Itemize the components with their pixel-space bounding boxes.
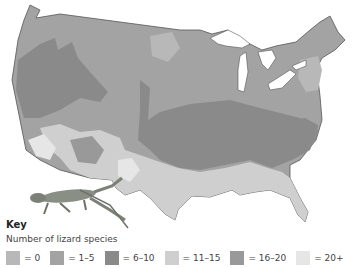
lizard-illustration — [30, 178, 128, 228]
us-lizard-species-map — [0, 0, 360, 240]
key-title: Key — [6, 219, 27, 230]
legend-item-6-10: = 6–10 — [105, 251, 155, 265]
legend-label: = 20+ — [314, 253, 343, 263]
legend-label: = 1–5 — [68, 253, 94, 263]
swatch-6-10 — [105, 251, 119, 265]
legend-label: = 11–15 — [183, 253, 221, 263]
legend-item-0: = 0 — [6, 251, 40, 265]
swatch-11-15 — [165, 251, 179, 265]
legend-item-11-15: = 11–15 — [165, 251, 221, 265]
swatch-20-plus — [296, 251, 310, 265]
legend-label: = 0 — [24, 253, 40, 263]
legend-item-16-20: = 16–20 — [230, 251, 286, 265]
swatch-0 — [6, 251, 20, 265]
legend-item-1-5: = 1–5 — [50, 251, 94, 265]
legend-label: = 16–20 — [248, 253, 286, 263]
legend: = 0 = 1–5 = 6–10 = 11–15 = 16–20 = 20+ — [6, 251, 354, 265]
legend-label: = 6–10 — [123, 253, 155, 263]
swatch-1-5 — [50, 251, 64, 265]
key-subtitle: Number of lizard species — [6, 234, 118, 244]
legend-item-20-plus: = 20+ — [296, 251, 343, 265]
swatch-16-20 — [230, 251, 244, 265]
